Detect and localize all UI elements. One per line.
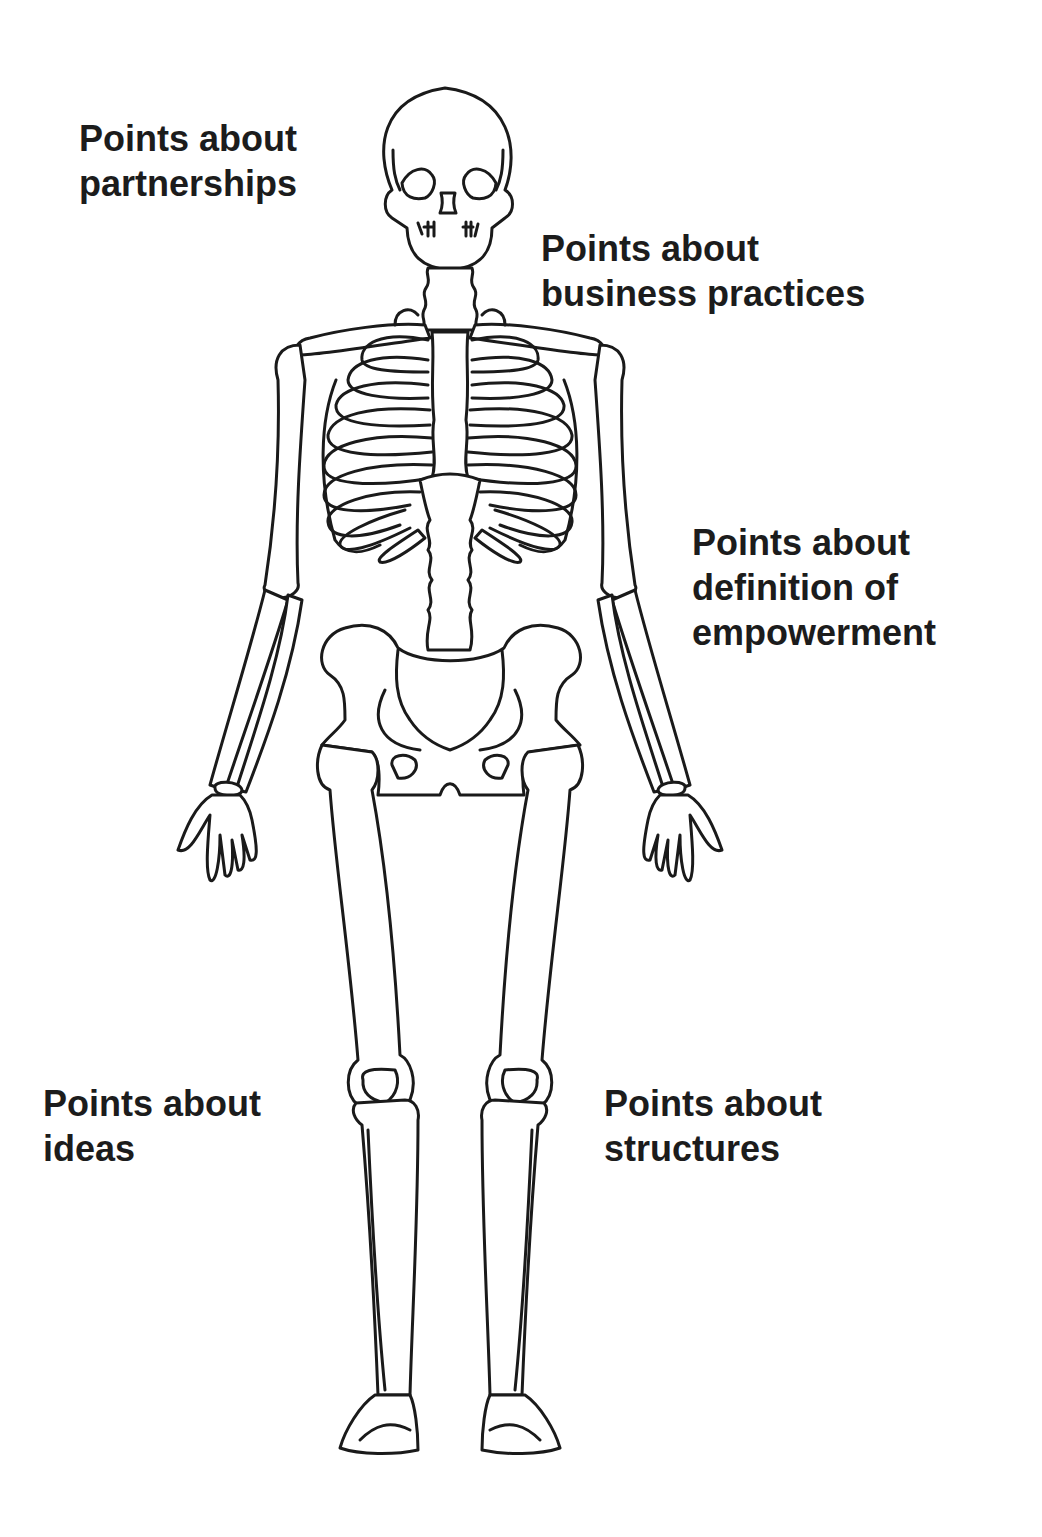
label-line: Points about xyxy=(692,520,936,565)
left-ribcage xyxy=(323,337,432,563)
left-leg xyxy=(317,745,418,1454)
right-ribcage xyxy=(468,337,577,563)
label-business-practices: Points about business practices xyxy=(541,226,865,316)
label-line: partnerships xyxy=(79,161,297,206)
label-line: Points about xyxy=(541,226,865,271)
lumbar-spine xyxy=(420,474,480,650)
skull xyxy=(384,88,513,270)
label-line: Points about xyxy=(43,1081,261,1126)
right-leg xyxy=(482,745,583,1454)
label-line: business practices xyxy=(541,271,865,316)
label-line: Points about xyxy=(604,1081,822,1126)
label-line: structures xyxy=(604,1126,822,1171)
label-structures: Points about structures xyxy=(604,1081,822,1171)
sternum xyxy=(432,332,468,478)
label-line: empowerment xyxy=(692,610,936,655)
label-partnerships: Points about partnerships xyxy=(79,116,297,206)
label-line: ideas xyxy=(43,1126,261,1171)
skeleton-illustration xyxy=(0,0,1042,1537)
left-arm xyxy=(178,345,305,881)
label-line: Points about xyxy=(79,116,297,161)
label-line: definition of xyxy=(692,565,936,610)
label-definition-of-empowerment: Points about definition of empowerment xyxy=(692,520,936,655)
label-ideas: Points about ideas xyxy=(43,1081,261,1171)
cervical-spine xyxy=(422,268,478,330)
skeleton-diagram: Points about partnerships Points about b… xyxy=(0,0,1042,1537)
